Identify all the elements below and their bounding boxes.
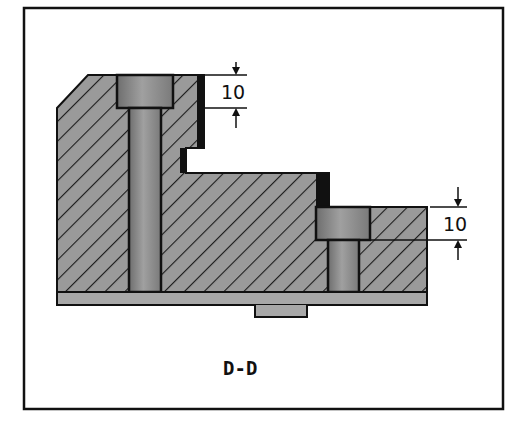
dimension-upper: 10 xyxy=(205,62,247,128)
section-caption: D-D xyxy=(223,357,257,379)
arrow-up-icon xyxy=(232,108,240,116)
arrow-down-icon xyxy=(454,199,462,207)
arrow-up-icon xyxy=(454,240,462,248)
arrow-down-icon xyxy=(232,67,240,75)
section-drawing: 10 10 D-D xyxy=(0,0,520,422)
edge-shadow-middle xyxy=(316,173,330,207)
dimension-lower-value: 10 xyxy=(443,213,467,235)
dimension-upper-value: 10 xyxy=(221,81,245,103)
edge-shadow-upper xyxy=(197,75,205,148)
base-plate xyxy=(57,292,427,317)
edge-shadow-notch xyxy=(180,148,187,173)
